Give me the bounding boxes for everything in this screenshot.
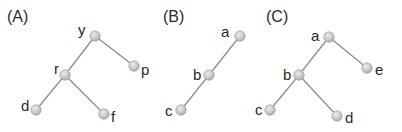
edge-y-p (95, 36, 134, 66)
tree-panel-b: (B)abc (163, 8, 245, 119)
node-label-c: c (165, 102, 173, 119)
node-label-d: d (21, 97, 29, 114)
node-label-d: d (345, 109, 353, 126)
edge-a-b (209, 36, 240, 75)
panel-label: (B) (163, 8, 184, 25)
node-label-e: e (375, 61, 383, 78)
tree-panel-a: (A)yprdf (7, 8, 149, 125)
node-d (332, 111, 342, 121)
tree-diagram: (A)yprdf(B)abc(C)aebcd (0, 0, 402, 132)
node-label-b: b (193, 66, 201, 83)
node-c (176, 105, 186, 115)
node-f (99, 109, 109, 119)
node-label-f: f (111, 108, 116, 125)
node-label-c: c (255, 101, 263, 118)
edge-a-e (329, 37, 367, 68)
node-b (294, 70, 304, 80)
node-e (362, 63, 372, 73)
node-d (31, 105, 41, 115)
node-label-p: p (141, 61, 149, 78)
node-label-a: a (311, 27, 320, 44)
tree-panel-c: (C)aebcd (255, 8, 383, 126)
node-a (324, 32, 334, 42)
panel-label: (A) (7, 8, 28, 25)
node-y (90, 31, 100, 41)
node-b (204, 70, 214, 80)
edge-r-f (65, 75, 104, 114)
node-label-y: y (78, 21, 86, 38)
node-a (235, 31, 245, 41)
node-p (129, 61, 139, 71)
edge-r-d (36, 75, 65, 110)
edge-y-r (65, 36, 95, 75)
edge-b-d (299, 75, 337, 116)
node-label-b: b (283, 66, 291, 83)
node-r (60, 70, 70, 80)
node-label-r: r (54, 60, 59, 77)
node-label-a: a (221, 23, 230, 40)
panel-label: (C) (266, 8, 288, 25)
node-c (265, 105, 275, 115)
